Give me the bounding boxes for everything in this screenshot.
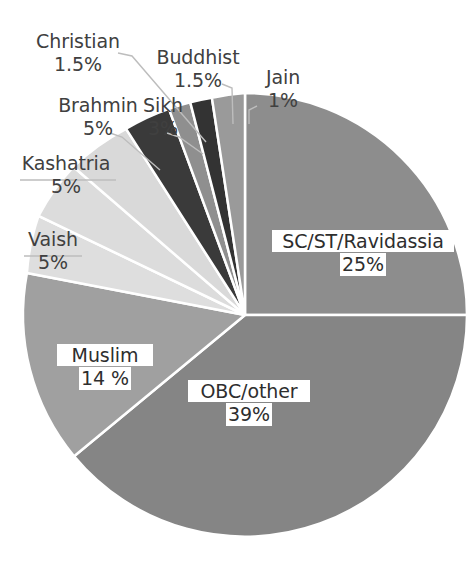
slice-label-jain-name: Jain [250, 66, 316, 89]
slice-label-kashatria: Kashatria 5% [10, 152, 122, 198]
slice-label-scst: SC/ST/Ravidassia 25% [272, 230, 454, 276]
pie-chart: Christian 1.5% Buddhist 1.5% Jain 1% Bra… [0, 0, 476, 568]
slice-label-christian-pct: 1.5% [22, 53, 134, 76]
slice-label-vaish-pct: 5% [18, 251, 88, 274]
pie-slice-scst[interactable] [245, 93, 467, 315]
slice-label-vaish: Vaish 5% [18, 228, 88, 274]
slice-label-scst-pct: 25% [340, 253, 386, 275]
slice-label-buddhist: Buddhist 1.5% [152, 46, 244, 92]
slice-label-obc-name: OBC/other [188, 380, 310, 402]
slice-label-muslim: Muslim 14 % [57, 344, 153, 390]
slice-label-obc: OBC/other 39% [188, 380, 310, 426]
slice-label-buddhist-name: Buddhist [152, 46, 244, 69]
slice-label-buddhist-pct: 1.5% [152, 69, 244, 92]
slice-label-scst-name: SC/ST/Ravidassia [272, 230, 454, 252]
slice-label-obc-pct: 39% [226, 403, 272, 425]
slice-label-muslim-pct: 14 % [79, 367, 131, 389]
slice-label-vaish-name: Vaish [18, 228, 88, 251]
slice-label-brahmin-pct: 5% [56, 117, 140, 140]
slice-label-brahmin-name: Brahmin [56, 94, 140, 117]
slice-label-jain: Jain 1% [250, 66, 316, 112]
slice-label-sikh: Sikh 3% [135, 94, 191, 140]
slice-label-sikh-name: Sikh [135, 94, 191, 117]
slice-label-christian-name: Christian [22, 30, 134, 53]
slice-label-sikh-pct: 3% [135, 117, 191, 140]
slice-label-kashatria-name: Kashatria [10, 152, 122, 175]
slice-label-brahmin: Brahmin 5% [56, 94, 140, 140]
slice-label-jain-pct: 1% [250, 89, 316, 112]
slice-label-kashatria-pct: 5% [10, 175, 122, 198]
slice-label-muslim-name: Muslim [57, 344, 153, 366]
slice-label-christian: Christian 1.5% [22, 30, 134, 76]
